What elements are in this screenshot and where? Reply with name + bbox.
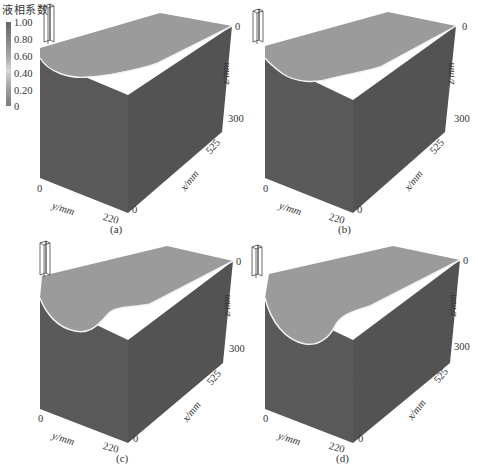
panel-a: 0 z/mm 300 525 x/mm 0 0 y/mm 220 (a) (0, 0, 239, 232)
x-axis-min: 0 (133, 433, 138, 444)
box-render-d (225, 236, 464, 468)
panel-label-b: (b) (338, 223, 351, 235)
x-axis-min: 0 (358, 433, 363, 444)
z-axis-max: 300 (454, 113, 470, 124)
panel-label-a: (a) (110, 223, 122, 235)
box-render-b (225, 0, 464, 232)
panel-label-d: (d) (336, 452, 349, 464)
panel-label-c: (c) (116, 452, 128, 464)
z-axis-min: 0 (462, 21, 467, 32)
x-axis-min: 0 (357, 204, 362, 215)
nozzle-icon (252, 245, 262, 278)
nozzle-icon (44, 4, 54, 44)
y-axis-min: 0 (263, 413, 268, 424)
z-axis-label: z/mm (445, 62, 456, 84)
z-axis-label: z/mm (447, 294, 458, 316)
nozzle-icon (40, 241, 50, 277)
box-render-c (0, 236, 239, 468)
x-axis-min: 0 (132, 204, 137, 215)
y-axis-min: 0 (38, 413, 43, 424)
y-axis-min: 0 (37, 183, 42, 194)
panel-c: 0 z/mm 300 525 x/mm 0 0 y/mm 220 (c) (0, 236, 239, 468)
y-axis-min: 0 (263, 183, 268, 194)
box-render-a (0, 0, 239, 232)
z-axis-min: 0 (463, 255, 468, 266)
nozzle-icon (253, 9, 263, 44)
panel-d: 0 z/mm 300 525 x/mm 0 0 y/mm 220 (d) (225, 236, 464, 468)
z-axis-max: 300 (454, 341, 470, 352)
panel-b: 0 z/mm 300 525 x/mm 0 0 y/mm 220 (b) (225, 0, 464, 232)
